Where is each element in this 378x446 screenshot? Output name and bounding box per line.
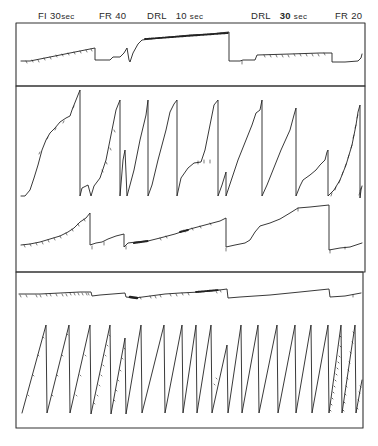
- panel-bottom-lower-record: [22, 325, 362, 414]
- panel-top-frame: [16, 23, 365, 86]
- panel-bottom-upper-record: [19, 289, 361, 299]
- panel-middle-upper-record: [21, 90, 362, 198]
- panel-middle-frame: [16, 86, 365, 272]
- cumulative-record-figure: [0, 0, 378, 446]
- panel-middle-lower-record: [21, 205, 362, 253]
- panel-frames: [16, 23, 365, 428]
- panel-top-record: [21, 32, 362, 64]
